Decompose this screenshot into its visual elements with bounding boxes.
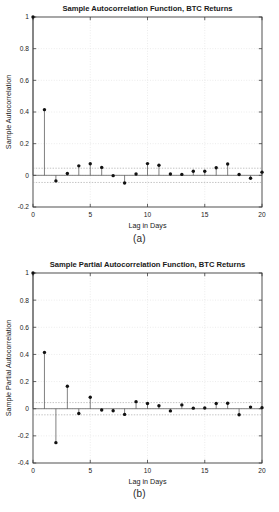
- chart-title: Sample Partial Autocorrelation Function,…: [50, 260, 246, 269]
- pacf-chart: Sample Partial Autocorrelation Function,…: [0, 256, 279, 486]
- x-tick-label: 15: [201, 467, 209, 474]
- x-tick-label: 20: [258, 211, 266, 218]
- stem-marker: [43, 351, 46, 354]
- panel-a: Sample Autocorrelation Function, BTC Ret…: [0, 0, 279, 256]
- stem-marker: [54, 179, 57, 182]
- x-tick-label: 10: [144, 467, 152, 474]
- y-tick-label: 0.2: [20, 378, 29, 385]
- stem-marker: [226, 402, 229, 405]
- y-tick-label: 0.8: [20, 45, 29, 52]
- stem-marker: [180, 403, 183, 406]
- stem-marker: [146, 162, 149, 165]
- y-tick-label: 0: [25, 405, 29, 412]
- stem-marker: [43, 108, 46, 111]
- y-tick-label: 1: [25, 13, 29, 20]
- stem-marker: [54, 441, 57, 444]
- stem-marker: [237, 413, 240, 416]
- stem-marker: [226, 162, 229, 165]
- stem-marker: [192, 406, 195, 409]
- x-tick-label: 0: [31, 467, 35, 474]
- x-tick-label: 0: [31, 211, 35, 218]
- x-tick-label: 5: [88, 467, 92, 474]
- y-tick-label: 0.6: [20, 77, 29, 84]
- acf-plot-container: Sample Autocorrelation Function, BTC Ret…: [0, 0, 279, 230]
- x-tick-label: 5: [88, 211, 92, 218]
- y-axis-label: Sample Autocorrelation: [4, 75, 13, 149]
- stem-marker: [111, 409, 114, 412]
- y-axis-label: Sample Partial Autocorrelation: [4, 320, 13, 417]
- y-tick-label: 0.8: [20, 297, 29, 304]
- stem-marker: [249, 405, 252, 408]
- stem-marker: [203, 170, 206, 173]
- stem-marker: [123, 181, 126, 184]
- y-tick-label: -0.2: [18, 432, 30, 439]
- y-tick-label: 0.4: [20, 351, 29, 358]
- y-tick-label: 0.4: [20, 108, 29, 115]
- chart-title: Sample Autocorrelation Function, BTC Ret…: [62, 4, 232, 13]
- stem-marker: [31, 15, 34, 18]
- y-tick-label: 0.2: [20, 140, 29, 147]
- stem-marker: [77, 164, 80, 167]
- stem-marker: [260, 406, 263, 409]
- stem-marker: [134, 172, 137, 175]
- stem-marker: [157, 404, 160, 407]
- subfigure-caption-b: (b): [0, 488, 279, 499]
- stem-marker: [89, 395, 92, 398]
- stem-marker: [31, 271, 34, 274]
- stem-marker: [215, 402, 218, 405]
- stem-marker: [260, 170, 263, 173]
- y-tick-label: 1: [25, 269, 29, 276]
- subfigure-caption-a: (a): [0, 233, 279, 244]
- stem-marker: [215, 166, 218, 169]
- stem-marker: [237, 173, 240, 176]
- stem-marker: [169, 409, 172, 412]
- stem-marker: [77, 412, 80, 415]
- stem-marker: [111, 174, 114, 177]
- stem-marker: [100, 408, 103, 411]
- stem-marker: [100, 166, 103, 169]
- stem-marker: [169, 172, 172, 175]
- x-tick-label: 10: [144, 211, 152, 218]
- stem-marker: [123, 413, 126, 416]
- x-tick-label: 15: [201, 211, 209, 218]
- x-tick-label: 20: [258, 467, 266, 474]
- stem-marker: [180, 173, 183, 176]
- y-tick-label: -0.2: [18, 203, 30, 210]
- panel-b: Sample Partial Autocorrelation Function,…: [0, 256, 279, 512]
- stem-marker: [203, 406, 206, 409]
- pacf-plot-container: Sample Partial Autocorrelation Function,…: [0, 256, 279, 486]
- stem-marker: [157, 164, 160, 167]
- figure-acf-pacf: Sample Autocorrelation Function, BTC Ret…: [0, 0, 279, 512]
- y-tick-label: 0.6: [20, 324, 29, 331]
- stem-marker: [134, 400, 137, 403]
- stem-marker: [66, 385, 69, 388]
- acf-chart: Sample Autocorrelation Function, BTC Ret…: [0, 0, 279, 230]
- stem-marker: [146, 402, 149, 405]
- stem-marker: [89, 162, 92, 165]
- stem-marker: [249, 176, 252, 179]
- y-tick-label: -0.4: [18, 459, 30, 466]
- x-axis-label: Lag in Days: [129, 221, 167, 230]
- stem-marker: [66, 172, 69, 175]
- y-tick-label: 0: [25, 172, 29, 179]
- x-axis-label: Lag in Days: [129, 477, 167, 486]
- stem-marker: [192, 170, 195, 173]
